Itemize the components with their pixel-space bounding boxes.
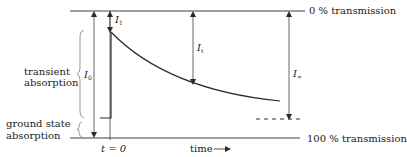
time-label: time [190, 143, 213, 154]
full-transmission-label: 100 % transmission [307, 133, 407, 144]
i0-label: I0 [84, 69, 92, 83]
t0-label: t = 0 [101, 143, 126, 154]
transient-label-line1: transient [24, 66, 70, 77]
transient-label-line2: absorption [24, 77, 78, 88]
signal-step [100, 32, 111, 118]
transient-brace [77, 30, 84, 118]
zero-transmission-label: 0 % transmission [309, 5, 396, 16]
iinf-label: I∞ [293, 68, 302, 82]
i1-label: I1 [115, 14, 123, 28]
it-label: It [197, 42, 203, 56]
ground-label-line2: absorption [6, 130, 60, 141]
ground-label-line1: ground state [6, 118, 71, 129]
decay-curve [111, 32, 280, 101]
ground-brace [77, 122, 82, 137]
